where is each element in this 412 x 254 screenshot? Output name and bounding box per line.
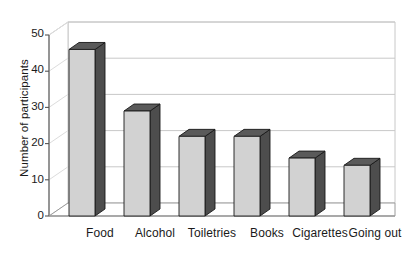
bar-front-face — [344, 165, 370, 216]
bar-side-face — [315, 151, 325, 216]
bar-side-face — [205, 129, 215, 216]
bar-front-face — [234, 136, 260, 216]
bar-side-face — [370, 158, 380, 216]
bar-books — [234, 129, 270, 216]
axis-tick-marks — [45, 35, 49, 216]
bar-front-face — [69, 49, 95, 216]
bar-toiletries — [179, 129, 215, 216]
bar-front-face — [289, 158, 315, 216]
bar-chart-figure: Number of participants 50 40 30 20 10 0 … — [0, 0, 412, 254]
bar-front-face — [124, 111, 150, 216]
plot-area — [0, 0, 412, 254]
bar-side-face — [150, 104, 160, 216]
bar-food — [69, 42, 105, 216]
bar-going-out — [344, 158, 380, 216]
bar-front-face — [179, 136, 205, 216]
bar-side-face — [260, 129, 270, 216]
bar-side-face — [95, 42, 105, 216]
bar-alcohol — [124, 104, 160, 216]
bar-cigarettes — [289, 151, 325, 216]
left-wall — [49, 22, 68, 216]
